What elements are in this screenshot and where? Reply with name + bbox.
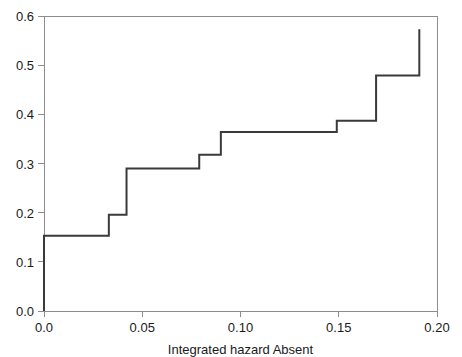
y-tick-label: 0.5 <box>16 58 34 73</box>
step-curve-absent <box>44 29 419 311</box>
axes <box>44 16 437 311</box>
y-tick-label: 0.2 <box>16 206 34 221</box>
chart-canvas: 0.00.050.100.150.20 0.00.10.20.30.40.50.… <box>0 0 462 357</box>
x-axis-title: Integrated hazard Absent <box>168 342 314 357</box>
y-tick-label: 0.0 <box>16 304 34 319</box>
plot-frame <box>44 16 437 311</box>
x-tick-label: 0.10 <box>228 320 253 335</box>
step-series <box>44 29 419 311</box>
y-tick-label: 0.4 <box>16 107 34 122</box>
x-tick-label: 0.05 <box>130 320 155 335</box>
step-chart-figure: 0.00.050.100.150.20 0.00.10.20.30.40.50.… <box>0 0 462 357</box>
y-tick-label: 0.1 <box>16 255 34 270</box>
x-tick-label: 0.20 <box>424 320 449 335</box>
y-tick-label: 0.3 <box>16 157 34 172</box>
y-axis-ticks: 0.00.10.20.30.40.50.6 <box>16 9 44 319</box>
y-tick-label: 0.6 <box>16 9 34 24</box>
x-axis-ticks: 0.00.050.100.150.20 <box>35 311 450 335</box>
x-tick-label: 0.0 <box>35 320 53 335</box>
x-tick-label: 0.15 <box>326 320 351 335</box>
